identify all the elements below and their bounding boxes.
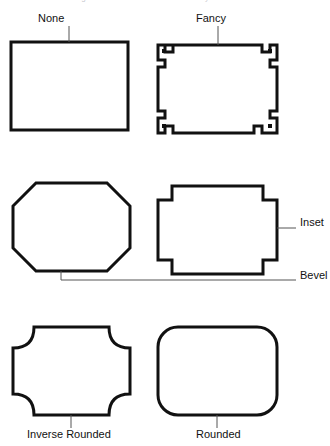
shape-fancy-outline — [158, 45, 277, 133]
shape-label-bevel: Bevel — [300, 269, 328, 282]
shape-bevel — [13, 183, 130, 271]
shape-none-outline — [11, 42, 128, 130]
shapes-canvas — [0, 0, 330, 446]
shape-bevel-outline — [13, 183, 130, 271]
shape-label-inverse-rounded: Inverse Rounded — [27, 428, 111, 441]
shape-inverse-rounded — [13, 327, 130, 415]
border-styles-figure: Figure 5-12: The different border styles… — [0, 0, 330, 446]
shape-fancy-corner-dot-br — [268, 124, 272, 128]
shape-none — [11, 42, 128, 130]
shape-fancy-corner-dot-bl — [162, 124, 166, 128]
shape-fancy-corner-dot-tl — [162, 49, 166, 53]
shape-fancy — [158, 45, 277, 133]
shape-inverse-rounded-outline — [13, 327, 130, 415]
shape-label-rounded: Rounded — [196, 428, 241, 441]
shape-label-none: None — [38, 12, 64, 25]
shape-fancy-corner-dot-tr — [268, 49, 272, 53]
shape-label-fancy: Fancy — [196, 12, 226, 25]
shape-rounded-outline — [158, 327, 277, 415]
shape-rounded — [158, 327, 277, 415]
shape-inset-outline — [158, 186, 277, 274]
shape-label-inset: Inset — [300, 216, 324, 229]
shape-inset — [158, 186, 277, 274]
